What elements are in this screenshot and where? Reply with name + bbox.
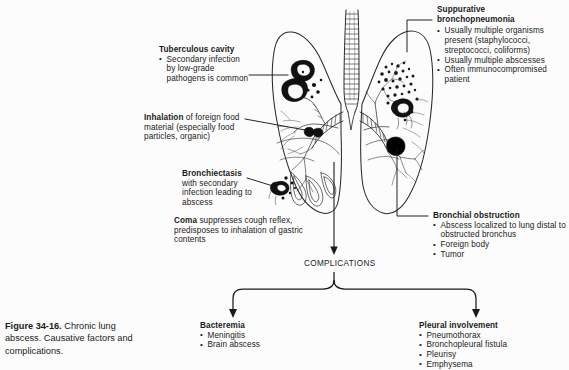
label-bronchiectasis-body: with secondary infection leading to absc… xyxy=(182,179,254,208)
label-bronchial-obstruction: Bronchial obstruction Abscess localized … xyxy=(433,211,566,260)
label-tuberculous-cavity-bullets: Secondary infection by low-grade pathoge… xyxy=(159,55,251,84)
list-item: Secondary infection by low-grade pathoge… xyxy=(159,55,251,84)
label-tuberculous-cavity-heading: Tuberculous cavity xyxy=(159,45,251,55)
list-item: Meningitis xyxy=(200,331,300,341)
list-item: Pneumothorax xyxy=(419,331,549,341)
flow-bracket-left xyxy=(233,280,334,310)
figure-caption: Figure 34-16. Chronic lung abscess. Caus… xyxy=(5,320,138,357)
list-item: Abscess localized to lung distal to obst… xyxy=(433,221,566,240)
label-bronchiectasis: Bronchiectasis with secondary infection … xyxy=(182,169,254,208)
flow-arrowhead-pleural xyxy=(472,309,480,318)
label-suppurative-heading-line2: bronchopneumonia xyxy=(437,15,565,25)
complication-bacteremia-bullets: Meningitis Brain abscess xyxy=(200,331,300,350)
complication-pleural-heading: Pleural involvement xyxy=(419,321,549,331)
label-suppurative-bullets: Usually multiple organisms present (stap… xyxy=(437,26,565,84)
list-item: Pleurisy xyxy=(419,350,549,360)
label-bronchial-obstruction-heading: Bronchial obstruction xyxy=(433,211,566,221)
list-item: Tumor xyxy=(433,250,566,260)
list-item: Usually multiple abscesses xyxy=(437,56,565,66)
figure-page: Tuberculous cavity Secondary infection b… xyxy=(0,0,569,370)
label-tuberculous-cavity: Tuberculous cavity Secondary infection b… xyxy=(159,45,251,84)
flow-arrowhead-bacteremia xyxy=(229,309,237,318)
list-item: Often immunocompromised patient xyxy=(437,65,565,84)
label-bronchiectasis-heading: Bronchiectasis xyxy=(182,169,254,179)
complication-pleural-bullets: Pneumothorax Bronchopleural fistula Pleu… xyxy=(419,331,549,370)
flow-arrowhead-complications xyxy=(330,247,337,256)
label-bronchial-obstruction-bullets: Abscess localized to lung distal to obst… xyxy=(433,221,566,260)
list-item: Emphysema xyxy=(419,360,549,370)
complications-node-label: COMPLICATIONS xyxy=(304,259,375,268)
label-coma-heading: Coma xyxy=(174,216,197,225)
label-suppurative-bronchopneumonia: Suppurative bronchopneumonia Usually mul… xyxy=(437,5,565,85)
label-inhalation-heading: Inhalation xyxy=(144,113,183,122)
list-item: Foreign body xyxy=(433,240,566,250)
label-inhalation: Inhalation of foreign food material (esp… xyxy=(144,113,252,142)
list-item: Bronchopleural fistula xyxy=(419,340,549,350)
complication-bacteremia-heading: Bacteremia xyxy=(200,321,300,331)
flow-bracket-right xyxy=(334,280,476,310)
label-suppurative-heading-line1: Suppurative xyxy=(437,5,565,15)
complication-bacteremia: Bacteremia Meningitis Brain abscess xyxy=(200,321,300,350)
figure-caption-label: Figure 34-16. xyxy=(5,321,62,331)
label-coma: Coma suppresses cough reflex, predispose… xyxy=(174,216,314,245)
complication-pleural-involvement: Pleural involvement Pneumothorax Broncho… xyxy=(419,321,549,370)
list-item: Usually multiple organisms present (stap… xyxy=(437,26,565,55)
list-item: Brain abscess xyxy=(200,340,300,350)
